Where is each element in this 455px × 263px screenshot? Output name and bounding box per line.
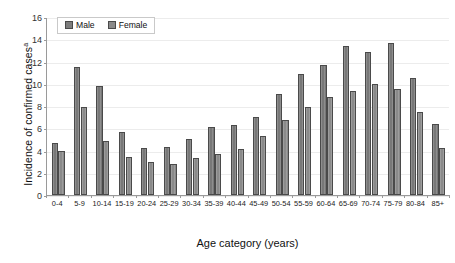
bar-group: [320, 18, 333, 195]
x-tick-mark: [248, 195, 249, 198]
bar-group: [96, 18, 109, 195]
bar-male-30-34: [186, 139, 192, 195]
bar-female-25-29: [170, 164, 176, 195]
bar-female-65-69: [350, 91, 356, 195]
x-tick-label: 40-44: [227, 199, 246, 208]
bar-male-15-19: [119, 132, 125, 195]
x-tick-label: 55-59: [294, 199, 313, 208]
x-tick-mark: [359, 195, 360, 198]
x-axis-tick-labels: 0-45-910-1415-1920-2425-2930-3435-3940-4…: [46, 199, 449, 215]
bar-male-35-39: [208, 127, 214, 195]
x-tick-mark: [427, 195, 428, 198]
x-tick-mark: [91, 195, 92, 198]
bar-female-15-19: [126, 157, 132, 195]
bar-group: [365, 18, 378, 195]
bars-layer: [47, 18, 449, 195]
bar-female-0-4: [58, 151, 64, 196]
x-axis-title: Age category (years): [46, 237, 449, 249]
x-tick-label: 60-64: [316, 199, 335, 208]
bar-male-55-59: [298, 74, 304, 195]
x-tick-mark: [113, 195, 114, 198]
bar-male-45-49: [253, 117, 259, 195]
x-tick-mark: [158, 195, 159, 198]
x-tick-label: 65-69: [339, 199, 358, 208]
legend-label-male: Male: [76, 20, 95, 30]
x-tick-mark: [180, 195, 181, 198]
x-tick-label: 30-34: [182, 199, 201, 208]
bar-group: [253, 18, 266, 195]
bar-female-30-34: [193, 158, 199, 195]
bar-male-85+: [432, 124, 438, 195]
bar-group: [410, 18, 423, 195]
x-tick-mark: [225, 195, 226, 198]
bar-female-10-14: [103, 141, 109, 196]
legend-swatch-female-icon: [108, 21, 116, 29]
bar-female-35-39: [215, 154, 221, 195]
bar-group: [119, 18, 132, 195]
incidence-by-age-bar-chart: Incidence of confirmed casesa 0246810121…: [0, 0, 455, 263]
bar-male-0-4: [52, 143, 58, 195]
x-tick-mark: [68, 195, 69, 198]
bar-group: [74, 18, 87, 195]
y-axis-title: Incidence of confirmed casesa: [22, 24, 35, 204]
bar-group: [52, 18, 65, 195]
bar-male-25-29: [164, 147, 170, 195]
bar-female-20-24: [148, 162, 154, 195]
bar-female-60-64: [327, 97, 333, 195]
x-tick-mark: [136, 195, 137, 198]
bar-group: [208, 18, 221, 195]
y-axis-title-footnote-marker: a: [22, 43, 29, 47]
legend-label-female: Female: [119, 20, 148, 30]
plot-area: 0246810121416: [46, 18, 449, 196]
bar-male-80-84: [410, 78, 416, 195]
legend-item-male: Male: [65, 20, 95, 30]
x-tick-label: 35-39: [204, 199, 223, 208]
x-tick-mark: [404, 195, 405, 198]
bar-group: [186, 18, 199, 195]
bar-male-5-9: [74, 67, 80, 195]
x-tick-label: 15-19: [115, 199, 134, 208]
bar-female-5-9: [81, 107, 87, 195]
bar-female-85+: [439, 148, 445, 195]
bar-female-40-44: [238, 149, 244, 195]
x-tick-label: 85+: [432, 199, 445, 208]
bar-group: [343, 18, 356, 195]
bar-female-75-79: [394, 89, 400, 195]
x-tick-label: 10-14: [93, 199, 112, 208]
x-tick-label: 50-54: [272, 199, 291, 208]
x-tick-label: 45-49: [249, 199, 268, 208]
bar-group: [388, 18, 401, 195]
bar-group: [276, 18, 289, 195]
x-tick-label: 0-4: [52, 199, 63, 208]
bar-male-10-14: [96, 86, 102, 195]
y-tick-label: 16: [32, 13, 42, 23]
y-tick-label: 10: [32, 80, 42, 90]
x-tick-mark: [315, 195, 316, 198]
bar-female-50-54: [282, 120, 288, 195]
bar-male-70-74: [365, 52, 371, 195]
bar-male-20-24: [141, 148, 147, 195]
bar-female-55-59: [305, 107, 311, 195]
bar-group: [164, 18, 177, 195]
y-tick-label: 0: [37, 191, 42, 201]
bar-male-40-44: [231, 125, 237, 195]
bar-group: [298, 18, 311, 195]
x-tick-mark: [337, 195, 338, 198]
x-tick-label: 75-79: [384, 199, 403, 208]
y-tick-label: 8: [37, 102, 42, 112]
bar-male-65-69: [343, 46, 349, 195]
chart-legend: Male Female: [57, 17, 155, 34]
y-tick-label: 12: [32, 58, 42, 68]
bar-female-80-84: [417, 112, 423, 195]
bar-male-50-54: [276, 94, 282, 195]
bar-male-60-64: [320, 65, 326, 195]
legend-swatch-male-icon: [65, 21, 73, 29]
x-tick-label: 80-84: [406, 199, 425, 208]
x-tick-mark: [292, 195, 293, 198]
bar-male-75-79: [388, 43, 394, 195]
y-tick-label: 2: [37, 169, 42, 179]
y-tick-label: 4: [37, 147, 42, 157]
y-axis-title-text: Incidence of confirmed cases: [22, 47, 34, 186]
x-tick-mark: [449, 195, 450, 198]
x-tick-mark: [203, 195, 204, 198]
